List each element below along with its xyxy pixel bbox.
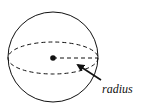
pointer-arrow	[78, 65, 101, 80]
radius-label: radius	[102, 82, 133, 96]
center-point	[50, 55, 56, 61]
